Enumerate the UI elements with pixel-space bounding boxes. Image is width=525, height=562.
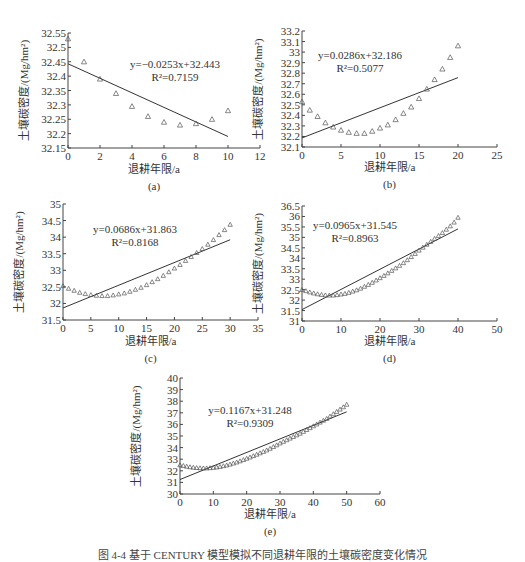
x-axis-label: 退耕年限/a: [125, 334, 177, 347]
panel-label: (a): [148, 180, 161, 193]
data-point-marker: [111, 293, 115, 297]
x-tick-label: 50: [341, 496, 353, 508]
data-point-marker: [122, 291, 126, 295]
x-tick-label: 20: [453, 149, 465, 161]
y-tick-label: 32.5: [47, 41, 67, 53]
data-point-marker: [105, 294, 109, 298]
data-point-marker: [370, 129, 375, 134]
figure-caption: 图 4-4 基于 CENTURY 模型模拟不同退耕年限的土壤碳密度变化情况: [0, 546, 525, 562]
y-tick-label: 32.7: [281, 78, 301, 90]
y-tick-label: 33.5: [42, 248, 62, 260]
trendline: [302, 229, 458, 310]
data-point-marker: [228, 222, 232, 226]
data-point-marker: [89, 293, 93, 297]
data-point-marker: [222, 228, 226, 232]
y-tick-label: 31: [167, 476, 178, 488]
data-point-marker: [307, 107, 312, 112]
y-tick-label: 33.1: [281, 36, 300, 48]
data-point-marker: [323, 293, 327, 297]
x-tick-label: 10: [113, 322, 125, 334]
x-axis-label: 退耕年限/a: [364, 160, 416, 173]
data-point-marker: [409, 104, 414, 109]
data-point-marker: [315, 114, 320, 119]
y-tick-label: 32.5: [42, 281, 62, 293]
regression-equation: y=0.0286x+32.186: [318, 49, 402, 61]
data-point-marker: [390, 268, 394, 272]
data-point-marker: [144, 283, 148, 287]
x-tick-label: 5: [88, 322, 94, 334]
y-tick-label: 36.5: [281, 200, 301, 212]
trendline: [63, 240, 230, 308]
x-tick-label: 40: [308, 496, 320, 508]
data-point-marker: [66, 286, 70, 290]
r-squared: R²=0.7159: [151, 71, 199, 83]
y-tick-label: 35: [167, 430, 179, 442]
data-point-marker: [323, 120, 328, 125]
data-point-marker: [386, 271, 390, 275]
x-tick-label: 10: [223, 150, 235, 162]
y-tick-label: 32.5: [281, 99, 301, 111]
data-point-marker: [377, 125, 382, 130]
x-tick-label: 50: [492, 323, 504, 335]
data-point-marker: [432, 77, 437, 82]
data-point-marker: [362, 131, 367, 136]
y-tick-label: 32.35: [41, 85, 66, 97]
regression-equation: y=0.1167x+31.248: [208, 404, 292, 416]
x-tick-label: 6: [161, 150, 167, 162]
x-tick-label: 10: [375, 149, 387, 161]
data-point-marker: [347, 290, 351, 294]
x-tick-label: 25: [197, 322, 209, 334]
y-tick-label: 32.15: [41, 142, 66, 154]
chart-panel-d: 010203040503131.53232.53333.53434.53535.…: [251, 200, 503, 365]
data-point-marker: [81, 59, 86, 64]
y-tick-label: 35: [289, 231, 301, 243]
data-point-marker: [172, 266, 176, 270]
x-tick-label: 20: [241, 496, 253, 508]
y-tick-label: 32.2: [281, 130, 300, 142]
x-tick-label: 0: [299, 149, 305, 161]
data-point-marker: [200, 247, 204, 251]
chart-panel-a: 02468101232.1532.232.2532.332.3532.432.4…: [17, 27, 266, 193]
x-tick-label: 12: [255, 150, 266, 162]
x-tick-label: 0: [65, 150, 71, 162]
x-tick-label: 8: [193, 150, 199, 162]
data-point-marker: [206, 242, 210, 246]
x-tick-label: 30: [414, 323, 426, 335]
data-point-marker: [343, 291, 347, 295]
y-tick-label: 33.2: [281, 25, 300, 37]
data-point-marker: [133, 287, 137, 291]
data-point-marker: [308, 290, 312, 294]
x-tick-label: 15: [414, 149, 426, 161]
data-point-marker: [401, 261, 405, 265]
data-point-marker: [312, 291, 316, 295]
trendline: [68, 64, 228, 137]
y-tick-label: 39: [167, 384, 179, 396]
regression-equation: y=0.0686x+31.863: [93, 223, 177, 235]
x-tick-label: 20: [169, 322, 181, 334]
y-tick-label: 31: [289, 315, 300, 327]
data-point-marker: [346, 130, 351, 135]
y-tick-label: 33: [289, 46, 301, 58]
y-tick-label: 30: [167, 488, 179, 500]
x-tick-label: 40: [453, 323, 465, 335]
data-point-marker: [117, 292, 121, 296]
x-tick-label: 10: [336, 323, 348, 335]
y-tick-label: 33: [167, 453, 179, 465]
data-point-marker: [440, 66, 445, 71]
data-point-marker: [78, 290, 82, 294]
data-point-marker: [452, 220, 456, 224]
data-point-marker: [455, 43, 460, 48]
y-tick-label: 35.5: [281, 221, 301, 233]
data-point-marker: [385, 122, 390, 127]
x-axis-label: 退耕年限/a: [364, 334, 416, 347]
data-point-marker: [432, 236, 436, 240]
y-tick-label: 31.5: [281, 305, 301, 317]
x-tick-label: 5: [338, 149, 344, 161]
data-point-marker: [100, 294, 104, 298]
y-tick-label: 37: [167, 407, 179, 419]
y-tick-label: 31.5: [42, 314, 62, 326]
y-tick-label: 32: [289, 294, 300, 306]
x-tick-label: 10: [208, 496, 220, 508]
x-tick-label: 20: [375, 323, 387, 335]
data-point-marker: [315, 292, 319, 296]
